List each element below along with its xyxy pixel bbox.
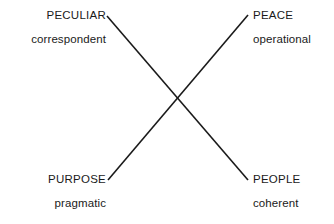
label-group-top-left: PECULIAR correspondent — [0, 9, 106, 46]
term-pragmatic[interactable]: pragmatic — [0, 197, 106, 210]
connector-line-peculiar-people[interactable] — [107, 16, 248, 180]
label-group-bottom-right: PEOPLE coherent — [253, 173, 334, 210]
term-coherent[interactable]: coherent — [253, 197, 334, 210]
connector-line-peace-purpose[interactable] — [108, 15, 248, 180]
term-peculiar[interactable]: PECULIAR — [0, 9, 106, 22]
diagram-canvas: PECULIAR correspondent PEACE operational… — [0, 0, 334, 224]
term-purpose[interactable]: PURPOSE — [0, 173, 106, 186]
term-operational[interactable]: operational — [253, 33, 334, 46]
term-correspondent[interactable]: correspondent — [0, 33, 106, 46]
term-people[interactable]: PEOPLE — [253, 173, 334, 186]
label-group-bottom-left: PURPOSE pragmatic — [0, 173, 106, 210]
label-group-top-right: PEACE operational — [253, 9, 334, 46]
term-peace[interactable]: PEACE — [253, 9, 334, 22]
